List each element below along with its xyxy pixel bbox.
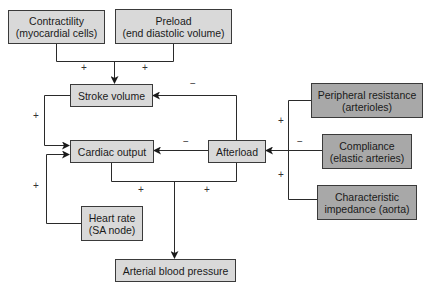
sign-heart-rate-cardiac-output: + [31,181,41,191]
cardiovascular-regulation-diagram: Contractility (myocardial cells) Preload… [0,0,428,287]
afterload-node: Afterload [208,140,266,163]
edge-heart-rate-to-cardiac-output [47,155,82,224]
arterial-blood-pressure-node: Arterial blood pressure [115,259,236,282]
sign-cardiac-output-abp: + [136,185,146,195]
edge-stroke-volume-to-cardiac-output [45,96,71,146]
edge-afterload-to-stroke-volume [153,96,237,141]
peripheral-resistance-node: Peripheral resistance (arterioles) [311,83,423,118]
sign-compliance-afterload: − [295,137,305,147]
heart-rate-node: Heart rate (SA node) [81,206,143,241]
sign-afterload-cardiac-output: − [181,137,191,147]
sign-afterload-abp: + [202,185,212,195]
contractility-node: Contractility (myocardial cells) [8,10,105,44]
sign-contractility-stroke-volume: + [79,63,89,73]
sign-stroke-volume-cardiac-output: + [31,111,41,121]
sign-characteristic-impedance-afterload: + [276,170,286,180]
sign-peripheral-resistance-afterload: + [276,116,286,126]
stroke-volume-node: Stroke volume [70,84,153,107]
characteristic-impedance-node: Characteristic impedance (aorta) [317,185,417,220]
sign-preload-stroke-volume: + [140,63,150,73]
preload-node: Preload (end diastolic volume) [115,9,232,44]
edge-contractility-preload-merge [57,44,174,62]
cardiac-output-node: Cardiac output [70,140,154,163]
sign-afterload-stroke-volume: − [188,79,198,89]
compliance-node: Compliance (elastic arteries) [322,134,412,169]
edge-co-afterload-merge [112,162,237,182]
